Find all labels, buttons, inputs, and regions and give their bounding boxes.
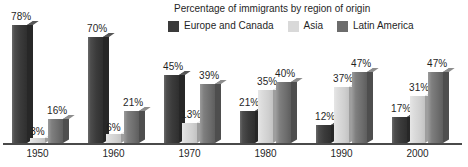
bar-front-face [124,111,139,143]
bar-value-label: 40% [275,68,295,80]
bar-side-face [63,116,69,143]
bar-value-label: 3% [30,126,44,138]
bar-side-face [215,81,221,143]
x-tick-label-2000: 2000 [406,147,428,161]
bar-2000-asia: 31% [410,96,425,143]
x-tick-label-1980: 1980 [254,147,276,161]
bar-1960-latin-america: 21% [124,111,139,143]
x-tick-label-1950: 1950 [26,147,48,161]
bar-1970-europe-and-canada: 45% [164,75,179,143]
bar-front-face [352,72,367,143]
bar-value-label: 6% [106,122,120,134]
bar-value-label: 12% [315,111,335,123]
bar-1960-europe-and-canada: 70% [88,37,103,143]
bar-value-label: 21% [239,97,259,109]
bar-value-label: 78% [11,11,31,23]
bar-value-label: 47% [427,58,447,70]
bar-front-face [410,96,425,143]
bar-front-face [106,134,121,143]
bar-side-face [291,79,297,143]
bar-side-face [139,108,145,143]
x-tick-label-1990: 1990 [330,147,352,161]
bar-front-face [316,125,331,143]
bar-value-label: 17% [391,103,411,115]
bar-1980-latin-america: 40% [276,82,291,143]
bar-front-face [12,25,27,143]
bar-value-label: 31% [409,82,429,94]
bar-front-face [276,82,291,143]
bar-1980-europe-and-canada: 21% [240,111,255,143]
bar-value-label: 39% [199,70,219,82]
x-axis-tick-labels: 195019601970198019902000 [0,147,468,165]
x-tick-label-1970: 1970 [178,147,200,161]
bar-1980-asia: 35% [258,90,273,143]
bar-1990-asia: 37% [334,87,349,143]
bar-1950-europe-and-canada: 78% [12,25,27,143]
bar-1950-latin-america: 16% [48,119,63,143]
bar-2000-europe-and-canada: 17% [392,117,407,143]
bar-1990-latin-america: 47% [352,72,367,143]
bar-front-face [334,87,349,143]
bar-value-label: 45% [163,61,183,73]
immigration-bar-chart: Percentage of immigrants by region of or… [0,0,468,167]
bar-side-face [367,69,373,143]
bar-front-face [428,72,443,143]
bar-2000-latin-america: 47% [428,72,443,143]
bar-front-face [392,117,407,143]
plot-area: 78%3%16%70%6%21%45%13%39%21%35%40%12%37%… [0,0,468,144]
bar-1960-asia: 6% [106,134,121,143]
bar-value-label: 16% [47,105,67,117]
bar-value-label: 70% [87,23,107,35]
bar-value-label: 21% [123,97,143,109]
bar-1990-europe-and-canada: 12% [316,125,331,143]
x-tick-label-1960: 1960 [102,147,124,161]
bar-value-label: 13% [181,109,201,121]
bar-front-face [182,123,197,143]
bar-1970-latin-america: 39% [200,84,215,143]
bar-value-label: 47% [351,58,371,70]
bar-side-face [443,69,449,143]
bar-front-face [48,119,63,143]
bar-front-face [240,111,255,143]
bar-front-face [164,75,179,143]
bar-front-face [258,90,273,143]
bar-front-face [200,84,215,143]
bar-1970-asia: 13% [182,123,197,143]
x-axis-line [3,143,462,145]
bar-side-face [27,22,33,143]
bar-front-face [88,37,103,143]
bar-value-label: 37% [333,73,353,85]
